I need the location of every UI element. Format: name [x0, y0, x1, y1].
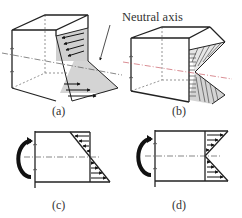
- panel-d-label: (d): [172, 198, 186, 212]
- panel-b-label: (b): [172, 104, 186, 118]
- panel-a: [2, 15, 122, 101]
- panel-d: [138, 130, 228, 187]
- neutral-axis-pointer: [100, 25, 110, 60]
- neutral-axis-label: Neutral axis: [122, 10, 183, 24]
- panel-c-label: (c): [52, 198, 65, 212]
- panel-a-label: (a): [52, 104, 65, 118]
- moment-arrow-icon: [18, 141, 31, 177]
- bending-stress-diagram: Neutral axis (a): [0, 0, 242, 218]
- moment-arrow-icon: [138, 139, 151, 175]
- panel-c: [18, 131, 110, 188]
- panel-b: [123, 27, 232, 104]
